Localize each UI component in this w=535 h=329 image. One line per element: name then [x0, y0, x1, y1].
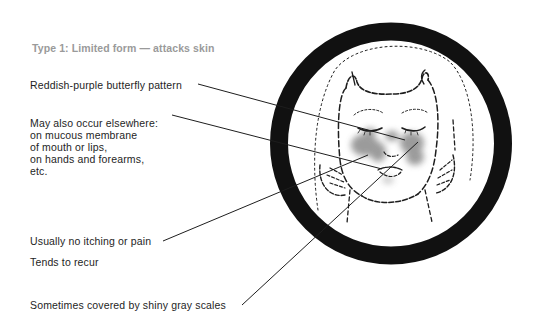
label-gray-scales: Sometimes covered by shiny gray scales	[30, 299, 226, 311]
butterfly-rash	[351, 128, 424, 184]
leader-line-elsewhere	[172, 115, 382, 169]
label-tends-to-recur: Tends to recur	[30, 256, 99, 268]
label-other-locations-line: May also occur elsewhere:	[30, 117, 158, 129]
leader-line-scales	[242, 142, 418, 305]
leader-line-itching	[163, 155, 368, 241]
label-butterfly-pattern: Reddish-purple butterfly pattern	[30, 79, 182, 91]
circle-frame	[279, 32, 503, 256]
label-other-locations: May also occur elsewhere: on mucous memb…	[30, 117, 158, 177]
label-other-locations-line: of mouth or lips,	[30, 141, 158, 153]
label-other-locations-line: on hands and forearms,	[30, 153, 158, 165]
label-other-locations-line: on mucous membrane	[30, 129, 158, 141]
leader-line-butterfly	[198, 84, 405, 140]
label-other-locations-line: etc.	[30, 165, 158, 177]
diagram-title: Type 1: Limited form — attacks skin	[32, 42, 214, 54]
label-no-itching: Usually no itching or pain	[30, 235, 151, 247]
leader-lines	[163, 84, 418, 305]
face-sketch	[315, 46, 473, 223]
